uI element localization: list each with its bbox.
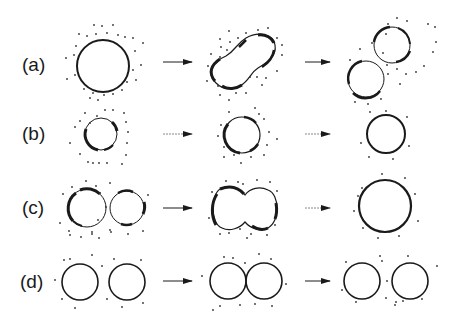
- vesicle-circle: [367, 115, 405, 153]
- particle-dots: [208, 179, 278, 239]
- vesicle-circle: [109, 264, 145, 300]
- vesicle-circle: [392, 263, 428, 299]
- particle-dots: [217, 107, 278, 164]
- vesicle-circle: [77, 40, 129, 92]
- merging-vesicle: [213, 187, 277, 230]
- vesicle-diagram: [0, 0, 457, 320]
- vesicle-circle: [62, 264, 98, 300]
- vesicle-circle: [344, 263, 380, 299]
- particle-dots: [201, 253, 287, 311]
- vesicle-circle: [246, 263, 282, 299]
- row-d: [54, 253, 438, 311]
- vesicle-circle: [210, 263, 246, 299]
- particle-dots: [54, 254, 144, 309]
- row-a: [65, 17, 437, 105]
- particle-dots: [59, 180, 149, 239]
- row-b: [69, 107, 410, 165]
- particle-dots: [69, 109, 129, 165]
- row-c: [59, 173, 419, 239]
- particle-dots: [353, 173, 419, 239]
- vesicle-circle: [110, 191, 144, 225]
- vesicle-circle: [359, 180, 411, 232]
